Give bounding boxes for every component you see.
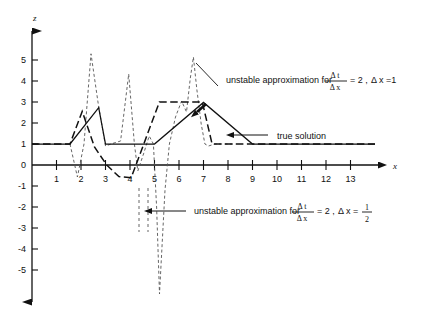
y-tick-label-n5: -5 xyxy=(18,265,26,275)
x-tick-label-10: 10 xyxy=(272,174,282,184)
annotation-bottom-equals: = 2 , xyxy=(317,206,335,216)
x-tick-label-5: 5 xyxy=(152,174,157,184)
y-tick-label-5: 5 xyxy=(21,55,26,65)
y-tick-label-1: 1 xyxy=(21,139,26,149)
annotation-arrow-top xyxy=(197,104,206,112)
annotation-bottom-prefix: unstable approximation for xyxy=(194,206,300,216)
annotation-top-suffix: Δ x =1 xyxy=(371,75,396,85)
y-tick-label-2: 2 xyxy=(21,118,26,128)
x-tick-label-9: 9 xyxy=(250,174,255,184)
x-tick-label-11: 11 xyxy=(297,174,306,184)
annotation-top-prefix: unstable approximation for xyxy=(226,75,332,85)
annotation-bottom-dx: Δ x = xyxy=(338,206,358,216)
annotation-bottom-half-denominator: 2 xyxy=(365,215,369,224)
x-tick-label-12: 12 xyxy=(321,174,331,184)
annotation-bottom-frac-numerator: Δ t xyxy=(298,202,308,211)
x-tick-label-2: 2 xyxy=(78,174,83,184)
y-tick-label-3: 3 xyxy=(21,97,26,107)
annotation-bottom-half-numerator: 1 xyxy=(365,203,369,212)
y-tick-label-n3: -3 xyxy=(18,223,26,233)
true-solution-label: true solution xyxy=(277,131,326,141)
x-tick-label-8: 8 xyxy=(225,174,230,184)
x-axis-title: x xyxy=(392,161,397,171)
axis-group: 5 4 3 2 1 0 -1 -2 -3 -4 -5 1 2 3 4 5 6 7… xyxy=(18,13,397,302)
figure-container: 5 4 3 2 1 0 -1 -2 -3 -4 -5 1 2 3 4 5 6 7… xyxy=(0,0,435,327)
y-tick-label-n4: -4 xyxy=(18,244,26,254)
y-tick-label-n1: -1 xyxy=(18,181,26,191)
y-axis-title: z xyxy=(32,13,37,23)
x-tick-label-13: 13 xyxy=(345,174,355,184)
x-tick-label-7: 7 xyxy=(201,174,206,184)
annotation-top: unstable approximation for Δ t Δ x = 2 ,… xyxy=(226,71,396,92)
annotation-true-solution: true solution xyxy=(277,131,326,141)
annotation-leader-bottom xyxy=(139,188,186,232)
annotation-bottom-frac-denominator: Δ x xyxy=(297,214,308,223)
y-tick-label-4: 4 xyxy=(21,76,26,86)
x-tick-label-4: 4 xyxy=(127,174,132,184)
y-tick-label-0: 0 xyxy=(21,160,26,170)
plot-svg: 5 4 3 2 1 0 -1 -2 -3 -4 -5 1 2 3 4 5 6 7… xyxy=(0,0,435,327)
annotation-top-equals: = 2 , xyxy=(350,75,368,85)
y-tick-label-n2: -2 xyxy=(18,202,26,212)
annotation-top-frac-denominator: Δ x xyxy=(330,83,341,92)
x-tick-label-6: 6 xyxy=(176,174,181,184)
annotation-top-frac-numerator: Δ t xyxy=(331,71,341,80)
x-tick-label-1: 1 xyxy=(54,174,59,184)
x-tick-label-3: 3 xyxy=(103,174,108,184)
annotation-bottom: unstable approximation for Δ t Δ x = 2 ,… xyxy=(194,202,372,224)
annotation-leader-top xyxy=(196,63,218,86)
